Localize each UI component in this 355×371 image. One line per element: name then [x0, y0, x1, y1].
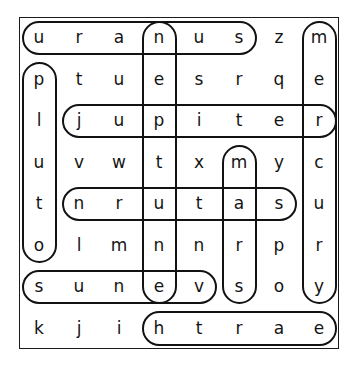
grid-cell-r6-c6[interactable]: r: [219, 225, 259, 267]
grid-cell-r3-c8[interactable]: r: [299, 100, 339, 142]
grid-cell-r4-c1[interactable]: u: [19, 142, 59, 184]
grid-cell-r4-c3[interactable]: w: [99, 142, 139, 184]
grid-cell-r6-c2[interactable]: l: [59, 225, 99, 267]
grid-cell-r4-c2[interactable]: v: [59, 142, 99, 184]
grid-cell-r8-c5[interactable]: t: [179, 308, 219, 350]
grid-cell-r1-c3[interactable]: a: [99, 17, 139, 59]
grid-cell-r6-c4[interactable]: n: [139, 225, 179, 267]
grid-cell-r7-c3[interactable]: n: [99, 266, 139, 308]
grid-cell-r8-c1[interactable]: k: [19, 308, 59, 350]
grid-cell-r2-c5[interactable]: s: [179, 59, 219, 101]
grid-cell-r3-c6[interactable]: t: [219, 100, 259, 142]
grid-cell-r8-c2[interactable]: j: [59, 308, 99, 350]
grid-cell-r1-c7[interactable]: z: [259, 17, 299, 59]
grid-cell-r5-c5[interactable]: t: [179, 183, 219, 225]
grid-cell-r5-c3[interactable]: r: [99, 183, 139, 225]
grid-cell-r2-c7[interactable]: q: [259, 59, 299, 101]
grid-cell-r8-c3[interactable]: i: [99, 308, 139, 350]
grid-cell-r3-c3[interactable]: u: [99, 100, 139, 142]
grid-cell-r5-c4[interactable]: u: [139, 183, 179, 225]
grid-cell-r7-c2[interactable]: u: [59, 266, 99, 308]
grid-cell-r7-c8[interactable]: y: [299, 266, 339, 308]
grid-cell-r2-c8[interactable]: e: [299, 59, 339, 101]
grid-cell-r1-c1[interactable]: u: [19, 17, 59, 59]
grid-cell-r5-c6[interactable]: a: [219, 183, 259, 225]
grid-cell-r6-c7[interactable]: p: [259, 225, 299, 267]
grid-cell-r8-c8[interactable]: e: [299, 308, 339, 350]
grid-cell-r7-c5[interactable]: v: [179, 266, 219, 308]
grid-cell-r4-c5[interactable]: x: [179, 142, 219, 184]
grid-cell-r5-c7[interactable]: s: [259, 183, 299, 225]
grid-cell-r5-c2[interactable]: n: [59, 183, 99, 225]
grid-cell-r2-c1[interactable]: p: [19, 59, 59, 101]
grid-cell-r6-c3[interactable]: m: [99, 225, 139, 267]
grid-cell-r6-c1[interactable]: o: [19, 225, 59, 267]
grid-cell-r4-c6[interactable]: m: [219, 142, 259, 184]
grid-cell-r3-c5[interactable]: i: [179, 100, 219, 142]
grid-cell-r7-c4[interactable]: e: [139, 266, 179, 308]
letter-grid: uranuszmptuesrqeljupiteruvwtxmyctnrutasu…: [19, 17, 339, 349]
grid-cell-r2-c3[interactable]: u: [99, 59, 139, 101]
grid-cell-r1-c2[interactable]: r: [59, 17, 99, 59]
grid-cell-r6-c5[interactable]: n: [179, 225, 219, 267]
grid-cell-r1-c6[interactable]: s: [219, 17, 259, 59]
grid-cell-r4-c7[interactable]: y: [259, 142, 299, 184]
grid-cell-r3-c2[interactable]: j: [59, 100, 99, 142]
grid-cell-r1-c8[interactable]: m: [299, 17, 339, 59]
grid-cell-r1-c4[interactable]: n: [139, 17, 179, 59]
grid-cell-r2-c6[interactable]: r: [219, 59, 259, 101]
grid-cell-r4-c8[interactable]: c: [299, 142, 339, 184]
grid-cell-r8-c6[interactable]: r: [219, 308, 259, 350]
grid-cell-r8-c7[interactable]: a: [259, 308, 299, 350]
grid-cell-r6-c8[interactable]: r: [299, 225, 339, 267]
grid-cell-r3-c1[interactable]: l: [19, 100, 59, 142]
grid-cell-r8-c4[interactable]: h: [139, 308, 179, 350]
grid-cell-r5-c8[interactable]: u: [299, 183, 339, 225]
grid-cell-r7-c7[interactable]: o: [259, 266, 299, 308]
grid-cell-r3-c4[interactable]: p: [139, 100, 179, 142]
word-search-puzzle: uranuszmptuesrqeljupiteruvwtxmyctnrutasu…: [0, 0, 355, 371]
grid-cell-r1-c5[interactable]: u: [179, 17, 219, 59]
grid-cell-r5-c1[interactable]: t: [19, 183, 59, 225]
grid-cell-r2-c4[interactable]: e: [139, 59, 179, 101]
grid-cell-r7-c6[interactable]: s: [219, 266, 259, 308]
grid-cell-r2-c2[interactable]: t: [59, 59, 99, 101]
grid-cell-r7-c1[interactable]: s: [19, 266, 59, 308]
grid-cell-r4-c4[interactable]: t: [139, 142, 179, 184]
grid-cell-r3-c7[interactable]: e: [259, 100, 299, 142]
